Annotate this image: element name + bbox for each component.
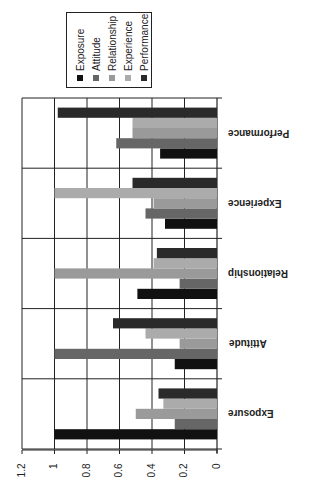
- bar-exposure-performance: [160, 148, 217, 158]
- legend-swatch-icon: [77, 75, 83, 81]
- category-label-experience: Experience: [228, 198, 268, 209]
- tick-label: 1.2: [14, 458, 28, 478]
- bar-experience-exposure: [163, 399, 217, 409]
- bar-performance-experience: [133, 178, 218, 188]
- bar-relationship-experience: [154, 198, 217, 208]
- bar-relationship-exposure: [136, 409, 217, 419]
- category-label-relationship: Relationship: [228, 268, 268, 279]
- bar-performance-attitude: [113, 318, 217, 328]
- tick-text: 0: [211, 464, 222, 470]
- legend-item-attitude: Attitude: [91, 17, 105, 81]
- tick-text: 1: [48, 464, 59, 470]
- bar-experience-relationship: [154, 258, 217, 268]
- tick-label: 0: [209, 458, 223, 478]
- tick-label: 0.6: [111, 458, 125, 478]
- legend-swatch-icon: [109, 75, 115, 81]
- legend-item-exposure: Exposure: [75, 17, 89, 81]
- legend-swatch-icon: [93, 75, 99, 81]
- category-text: Experience: [228, 198, 281, 209]
- bar-performance-performance: [58, 108, 217, 118]
- legend-item-performance: Performance: [139, 17, 153, 81]
- category-label-exposure: Exposure: [228, 408, 268, 419]
- bar-experience-experience: [55, 188, 218, 198]
- bar-relationship-performance: [133, 128, 218, 138]
- tick-label: 0.4: [144, 458, 158, 478]
- category-text: Attitude: [229, 338, 267, 349]
- bar-experience-performance: [133, 118, 218, 128]
- bar-exposure-exposure: [55, 429, 218, 439]
- legend-label: Exposure: [75, 29, 87, 71]
- category-text: Relationship: [228, 268, 288, 279]
- tick-label: 0.2: [176, 458, 190, 478]
- tick-label: 1: [46, 458, 60, 478]
- category-label-attitude: Attitude: [228, 338, 268, 349]
- tick-text: 0.4: [146, 464, 157, 478]
- legend-swatch-icon: [125, 75, 131, 81]
- legend-label: Experience: [123, 21, 135, 71]
- legend-label: Attitude: [91, 37, 103, 71]
- bar-exposure-relationship: [137, 289, 217, 299]
- bar-attitude-performance: [116, 138, 217, 148]
- bar-attitude-experience: [146, 208, 218, 218]
- bar-attitude-attitude: [55, 349, 218, 359]
- bar-relationship-relationship: [55, 268, 218, 278]
- legend: Exposure Attitude Relationship Experienc…: [66, 12, 152, 88]
- category-text: Performance: [228, 128, 289, 139]
- category-text: Exposure: [228, 408, 274, 419]
- tick-text: 1.2: [16, 464, 27, 478]
- legend-swatch-icon: [141, 75, 147, 81]
- bar-performance-relationship: [157, 248, 217, 258]
- legend-item-experience: Experience: [123, 17, 137, 81]
- legend-label: Relationship: [107, 16, 119, 71]
- tick-text: 0.2: [178, 464, 189, 478]
- category-label-performance: Performance: [228, 128, 268, 139]
- bar-exposure-attitude: [175, 359, 217, 369]
- tick-text: 0.8: [81, 464, 92, 478]
- tick-text: 0.6: [113, 464, 124, 478]
- bar-relationship-attitude: [180, 339, 217, 349]
- bar-attitude-relationship: [180, 279, 217, 289]
- bar-attitude-exposure: [175, 419, 217, 429]
- tick-label: 0.8: [79, 458, 93, 478]
- bar-performance-exposure: [159, 388, 218, 398]
- legend-item-relationship: Relationship: [107, 17, 121, 81]
- bar-experience-attitude: [146, 328, 218, 338]
- bar-chart: Exposure Attitude Relationship Experienc…: [0, 0, 320, 489]
- bar-exposure-experience: [165, 219, 217, 229]
- legend-label: Performance: [139, 14, 151, 71]
